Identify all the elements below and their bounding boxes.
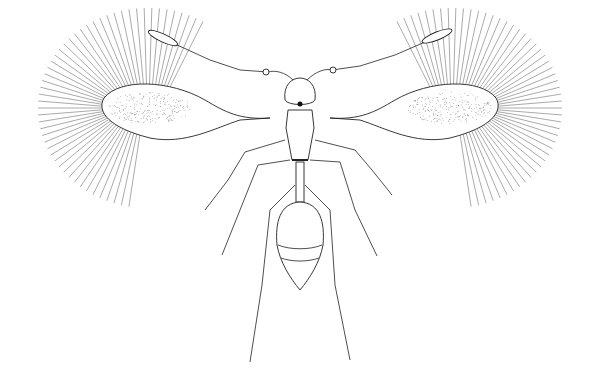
wing-seta-dot bbox=[432, 109, 433, 110]
wing-seta-dot bbox=[489, 103, 490, 104]
wing-seta-dot bbox=[142, 113, 143, 114]
wing-seta-dot bbox=[164, 110, 165, 111]
wing-seta-dot bbox=[150, 93, 151, 94]
wing-seta-dot bbox=[160, 103, 161, 104]
wing-seta-dot bbox=[152, 92, 153, 93]
wing-seta-dot bbox=[172, 111, 173, 112]
wing-seta-dot bbox=[478, 104, 479, 105]
wing-seta-dot bbox=[133, 98, 134, 99]
wing-seta-dot bbox=[410, 112, 411, 113]
wing-seta-dot bbox=[142, 98, 143, 99]
wing-seta-dot bbox=[176, 99, 177, 100]
wing-seta-dot bbox=[430, 102, 431, 103]
wing-seta-dot bbox=[429, 111, 430, 112]
wing-seta-dot bbox=[171, 106, 172, 107]
wing-seta-dot bbox=[171, 119, 172, 120]
wing-seta-dot bbox=[456, 113, 457, 114]
wing-seta-dot bbox=[417, 113, 418, 114]
wing-seta-dot bbox=[141, 118, 142, 119]
wing-seta-dot bbox=[417, 102, 418, 103]
wing-seta-dot bbox=[157, 110, 158, 111]
wing-seta-dot bbox=[462, 107, 463, 108]
wing-seta-dot bbox=[164, 98, 165, 99]
wing-seta-dot bbox=[442, 107, 443, 108]
wing-seta-dot bbox=[451, 106, 452, 107]
fringe-seta bbox=[486, 121, 541, 167]
wing-seta-dot bbox=[171, 115, 172, 116]
wing-seta-dot bbox=[157, 113, 158, 114]
wing-seta-dot bbox=[446, 98, 447, 99]
fringe-seta bbox=[80, 125, 122, 186]
fringe-seta bbox=[468, 128, 493, 200]
wing-seta-dot bbox=[119, 116, 120, 117]
wing-seta-dot bbox=[152, 120, 153, 121]
fringe-seta bbox=[492, 80, 557, 101]
wing-seta-dot bbox=[444, 98, 445, 99]
fringe-seta bbox=[480, 34, 526, 92]
wing-seta-dot bbox=[165, 102, 166, 103]
wing-seta-dot bbox=[164, 104, 165, 105]
wing-seta-dot bbox=[136, 113, 137, 114]
wing-seta-dot bbox=[127, 117, 128, 118]
wing-seta-dot bbox=[440, 94, 441, 95]
fringe-seta bbox=[411, 15, 436, 87]
wing-seta-dot bbox=[481, 112, 482, 113]
wing-seta-dot bbox=[173, 116, 174, 117]
wing-seta-dot bbox=[475, 97, 476, 98]
wing-seta-dot bbox=[465, 115, 466, 116]
wing-seta-dot bbox=[421, 97, 422, 98]
wing-seta-dot bbox=[442, 93, 443, 94]
wing-seta-dot bbox=[448, 107, 449, 108]
wing-seta-dot bbox=[449, 123, 450, 124]
wing-seta-dot bbox=[148, 115, 149, 116]
wing-seta-dot bbox=[435, 109, 436, 110]
wing-seta-dot bbox=[143, 96, 144, 97]
wing-seta-dot bbox=[146, 118, 147, 119]
wing-seta-dot bbox=[460, 115, 461, 116]
fringe-seta bbox=[433, 10, 445, 87]
wing-seta-dot bbox=[414, 100, 415, 101]
wing-seta-dot bbox=[483, 113, 484, 114]
wing-seta-dot bbox=[487, 102, 488, 103]
wing-seta-dot bbox=[155, 105, 156, 106]
wing-seta-dot bbox=[425, 111, 426, 112]
wing-seta-dot bbox=[436, 118, 437, 119]
wing-seta-dot bbox=[163, 97, 164, 98]
wing-seta-dot bbox=[147, 116, 148, 117]
wing-seta-dot bbox=[428, 96, 429, 97]
right-antenna bbox=[307, 26, 453, 80]
wing-seta-dot bbox=[123, 109, 124, 110]
wing-seta-dot bbox=[140, 103, 141, 104]
wing-seta-dot bbox=[111, 113, 112, 114]
wing-seta-dot bbox=[452, 99, 453, 100]
wing-seta-dot bbox=[164, 112, 165, 113]
wing-seta-dot bbox=[433, 114, 434, 115]
wing-seta-dot bbox=[162, 110, 163, 111]
fringe-seta bbox=[38, 101, 106, 106]
wing-seta-dot bbox=[468, 108, 469, 109]
wing-seta-dot bbox=[439, 119, 440, 120]
wing-seta-dot bbox=[427, 109, 428, 110]
wing-seta-dot bbox=[150, 112, 151, 113]
fringe-seta bbox=[86, 126, 124, 191]
wing-seta-dot bbox=[187, 106, 188, 107]
wing-seta-dot bbox=[475, 112, 476, 113]
wing-seta-dot bbox=[450, 114, 451, 115]
wing-seta-dot bbox=[457, 116, 458, 117]
wing-seta-dot bbox=[129, 95, 130, 96]
wing-seta-dot bbox=[165, 109, 166, 110]
wing-seta-dot bbox=[167, 108, 168, 109]
wing-seta-dot bbox=[469, 107, 470, 108]
wing-seta-dot bbox=[480, 108, 481, 109]
wing-seta-dot bbox=[440, 105, 441, 106]
wing-seta-dot bbox=[156, 97, 157, 98]
wing-seta-dot bbox=[160, 106, 161, 107]
wing-seta-dot bbox=[476, 119, 477, 120]
wing-seta-dot bbox=[466, 122, 467, 123]
wing-seta-dot bbox=[416, 104, 417, 105]
wing-seta-dot bbox=[459, 101, 460, 102]
wing-seta-dot bbox=[130, 120, 131, 121]
wing-seta-dot bbox=[110, 106, 111, 107]
wing-seta-dot bbox=[134, 103, 135, 104]
wing-seta-dot bbox=[119, 110, 120, 111]
